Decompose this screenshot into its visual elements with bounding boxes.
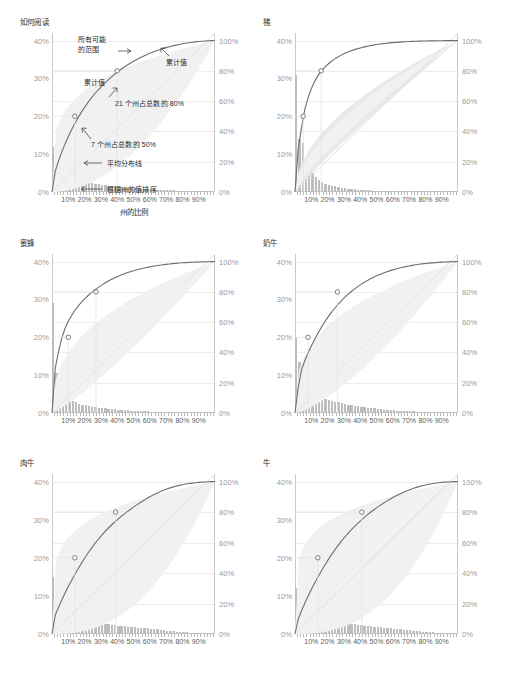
- y-axis-left-tick: 10%: [277, 150, 292, 159]
- x-axis-tick: 60%: [143, 417, 157, 424]
- marker-50-percent: [73, 556, 77, 560]
- y-axis-left-tick: 0%: [281, 188, 292, 197]
- cumulative-right-arrow: [160, 47, 172, 59]
- x-axis-tick: 90%: [435, 638, 449, 645]
- y-axis-right-tick: 80%: [219, 66, 234, 75]
- y-axis-right-tick: 100%: [462, 477, 482, 486]
- y-axis-left-tick: 40%: [277, 477, 292, 486]
- pct50-arrow: [80, 125, 94, 141]
- x-axis-tick: 30%: [94, 417, 108, 424]
- x-axis-tick: 90%: [435, 417, 449, 424]
- x-axis-tick: 20%: [321, 638, 335, 645]
- y-axis-right-tick: 0%: [219, 409, 230, 418]
- y-axis-left-tick: 0%: [38, 630, 49, 639]
- panel-title: 如何阅读: [18, 18, 255, 29]
- marker-80-percent: [335, 290, 339, 294]
- marker-80-percent: [319, 69, 323, 73]
- marker-80-percent: [360, 510, 364, 514]
- x-axis-tick: 90%: [435, 196, 449, 203]
- x-axis-tick: 80%: [418, 417, 432, 424]
- plot-box: 0%10%20%30%40%0%20%40%60%80%100%10%20%30…: [295, 474, 458, 634]
- y-axis-right-tick: 20%: [462, 378, 477, 387]
- x-axis-tick: 20%: [78, 417, 92, 424]
- curve-overlay: [52, 474, 215, 634]
- y-axis-left-tick: 20%: [34, 112, 49, 121]
- x-axis-tick: 80%: [175, 196, 189, 203]
- small-multiples-grid: 如何阅读0%10%20%30%40%0%20%40%60%80%100%10%2…: [0, 0, 517, 679]
- average-line-arrow: [82, 160, 102, 166]
- x-axis-ticks: [295, 413, 458, 416]
- y-axis-left-tick: 20%: [277, 553, 292, 562]
- x-axis-tick: 70%: [402, 417, 416, 424]
- x-axis-tick: 10%: [304, 417, 318, 424]
- y-axis-right-tick: 20%: [462, 599, 477, 608]
- plot-area: 0%10%20%30%40%0%20%40%60%80%100%10%20%30…: [261, 470, 498, 656]
- panel-title: 蜜蜂: [18, 239, 255, 250]
- y-axis-left-tick: 40%: [277, 257, 292, 266]
- y-axis-right-tick: 40%: [462, 348, 477, 357]
- plot-box: 0%10%20%30%40%0%20%40%60%80%100%10%20%30…: [52, 254, 215, 413]
- x-axis-tick: 40%: [353, 417, 367, 424]
- y-axis-left-tick: 40%: [277, 36, 292, 45]
- x-axis-tick: 70%: [159, 638, 173, 645]
- y-axis-right-tick: 20%: [219, 599, 234, 608]
- x-axis-tick: 40%: [110, 196, 124, 203]
- y-axis-left-tick: 30%: [277, 295, 292, 304]
- annotation-sorted: 根据州的值排序: [107, 185, 157, 195]
- chart-panel-3: 蜜蜂0%10%20%30%40%0%20%40%60%80%100%10%20%…: [18, 239, 255, 458]
- y-axis-right-tick: 0%: [219, 630, 230, 639]
- marker-50-percent: [306, 335, 310, 339]
- annotation-cumulative-left: 累计值: [84, 78, 105, 88]
- y-axis-right-tick: 80%: [219, 287, 234, 296]
- x-axis-tick: 30%: [337, 196, 351, 203]
- cumulative-curve: [295, 41, 458, 192]
- x-axis-label: 州的比例: [52, 206, 215, 217]
- x-axis-tick: 30%: [94, 196, 108, 203]
- y-axis-right-tick: 60%: [219, 538, 234, 547]
- plot-box: 0%10%20%30%40%0%20%40%60%80%100%10%20%30…: [52, 33, 215, 192]
- y-axis-right-tick: 20%: [462, 157, 477, 166]
- y-axis-left-tick: 20%: [277, 112, 292, 121]
- y-axis-left-tick: 20%: [277, 333, 292, 342]
- annotation-average-line: 平均分布线: [107, 159, 143, 169]
- possible-range-band: [295, 41, 458, 192]
- x-axis-tick: 60%: [143, 638, 157, 645]
- x-axis-tick: 90%: [192, 417, 206, 424]
- x-axis-tick: 50%: [369, 638, 383, 645]
- y-axis-left-tick: 0%: [38, 188, 49, 197]
- x-axis-tick: 80%: [418, 638, 432, 645]
- plot-area: 0%10%20%30%40%0%20%40%60%80%100%10%20%30…: [18, 470, 255, 656]
- marker-50-percent: [66, 335, 70, 339]
- y-axis-left-tick: 40%: [34, 36, 49, 45]
- range-arrow: [118, 48, 134, 54]
- y-axis-right-tick: 100%: [219, 36, 239, 45]
- marker-80-percent: [113, 510, 117, 514]
- average-distribution-line: [52, 254, 215, 413]
- x-axis-tick: 10%: [61, 196, 75, 203]
- chart-panel-1: 如何阅读0%10%20%30%40%0%20%40%60%80%100%10%2…: [18, 18, 255, 238]
- x-axis-tick: 50%: [369, 417, 383, 424]
- x-axis-ticks: [52, 634, 215, 637]
- x-axis-tick: 70%: [159, 417, 173, 424]
- average-distribution-line: [295, 33, 458, 192]
- possible-range-band-inner: [295, 41, 458, 192]
- y-axis-right-tick: 40%: [219, 127, 234, 136]
- x-axis-tick: 10%: [61, 417, 75, 424]
- x-axis-tick: 50%: [126, 417, 140, 424]
- plot-area: 0%10%20%30%40%0%20%40%60%80%100%10%20%30…: [18, 29, 255, 214]
- annotation-50-percent: 7 个州占总数的 50%: [91, 140, 156, 150]
- y-axis-right-tick: 100%: [219, 477, 239, 486]
- y-axis-left-tick: 10%: [277, 591, 292, 600]
- x-axis-ticks: [295, 634, 458, 637]
- y-axis-right-tick: 60%: [462, 318, 477, 327]
- y-axis-right-tick: 100%: [219, 257, 239, 266]
- y-axis-right-tick: 0%: [219, 188, 230, 197]
- annotation-possible-range: 所有可能 的范围: [78, 35, 106, 54]
- panel-title: 猪: [261, 18, 498, 29]
- x-axis-tick: 70%: [402, 196, 416, 203]
- x-axis-tick: 10%: [304, 638, 318, 645]
- y-axis-left-tick: 40%: [34, 257, 49, 266]
- chart-panel-5: 肉牛0%10%20%30%40%0%20%40%60%80%100%10%20%…: [18, 459, 255, 679]
- x-axis-tick: 30%: [337, 638, 351, 645]
- chart-panel-6: 牛0%10%20%30%40%0%20%40%60%80%100%10%20%3…: [261, 459, 498, 679]
